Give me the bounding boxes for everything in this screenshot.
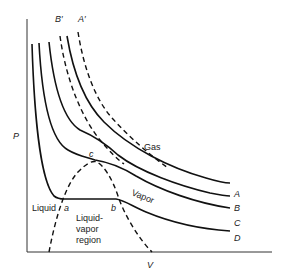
region-label-liquid-vapor-3: region (76, 235, 101, 245)
region-label-vapor: Vapor (130, 188, 155, 206)
x-axis-label: V (147, 260, 154, 270)
pv-diagram: P V A B C D B′ A′ a b c Gas Vapor Liquid… (0, 0, 285, 280)
region-label-liquid: Liquid (32, 203, 56, 213)
isotherm-label-d: D (234, 233, 241, 243)
isotherm-b (49, 42, 230, 196)
isotherm-c (39, 43, 230, 208)
y-axis-label: P (13, 131, 19, 141)
curve-label-b-prime: B′ (55, 14, 63, 24)
point-label-b: b (111, 203, 116, 213)
point-label-c: c (89, 149, 94, 159)
isotherm-label-c: C (234, 218, 241, 228)
curve-b-prime (60, 36, 124, 164)
region-label-liquid-vapor-2: vapor (76, 224, 99, 234)
region-label-gas: Gas (144, 142, 161, 152)
region-label-liquid-vapor-1: Liquid- (76, 213, 103, 223)
isotherm-label-b: B (234, 203, 240, 213)
curve-label-a-prime: A′ (77, 14, 86, 24)
isotherm-label-a: A (233, 189, 240, 199)
isotherm-a (67, 36, 230, 183)
point-label-a: a (64, 203, 69, 213)
